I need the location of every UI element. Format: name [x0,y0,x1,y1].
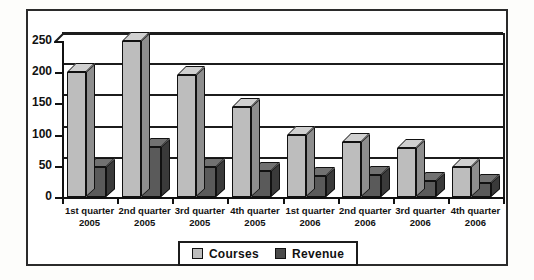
x-tick-4 [227,197,229,204]
x-label-year: 2006 [445,217,505,229]
x-label-year: 2005 [225,217,285,229]
x-label-year: 2006 [390,217,450,229]
chart-legend: Courses Revenue [178,241,358,266]
x-tick-7 [393,197,395,204]
legend-swatch-courses [192,248,203,259]
x-axis-label-6: 2nd quarter2006 [335,205,395,228]
bar-courses-4 [232,107,251,197]
x-tick-6 [338,197,340,204]
legend-label-courses: Courses [209,247,259,261]
bar-side [161,139,170,197]
legend-item-courses: Courses [192,247,259,261]
bar-side [306,126,315,196]
y-tick-label-100: 100 [8,127,52,141]
x-label-year: 2005 [115,217,175,229]
bar-face [67,72,86,197]
bar-face [342,142,361,197]
bar-side [251,98,260,197]
bar-side [86,64,95,197]
x-axis-label-4: 4th quarter2005 [225,205,285,228]
bar-courses-6 [342,142,361,197]
chart-screenshot: 050100150200250 1st quarter20052nd quart… [0,0,534,280]
y-tick-0 [55,197,62,199]
y-tick-label-50: 50 [8,158,52,172]
y-tick-50 [55,166,62,168]
y-tick-100 [55,135,62,137]
bar-side [141,33,150,197]
x-label-year: 2006 [335,217,395,229]
legend-swatch-revenue [275,248,286,259]
y-tick-250 [55,41,62,43]
y-tick-200 [55,72,62,74]
x-tick-2 [117,197,119,204]
y-axis-line [62,41,64,199]
bar-courses-7 [397,148,416,197]
x-tick-8 [448,197,450,204]
x-axis-label-1: 1st quarter2005 [60,205,120,228]
y-tick-150 [55,103,62,105]
x-axis-label-7: 3rd quarter2006 [390,205,450,228]
y-tick-label-0: 0 [8,189,52,203]
bar-courses-8 [452,167,471,197]
x-tick-end [503,197,505,204]
x-label-quarter: 3rd quarter [395,205,445,216]
bar-face [452,167,471,197]
legend-label-revenue: Revenue [292,247,344,261]
x-label-year: 2005 [60,217,120,229]
x-label-quarter: 3rd quarter [175,205,225,216]
bar-courses-1 [67,72,86,197]
y-tick-label-150: 150 [8,95,52,109]
bar-courses-5 [287,135,306,197]
x-label-quarter: 2nd quarter [339,205,391,216]
x-axis-label-3: 3rd quarter2005 [170,205,230,228]
legend-item-revenue: Revenue [275,247,344,261]
x-label-quarter: 4th quarter [230,205,280,216]
x-axis-label-5: 1st quarter2006 [280,205,340,228]
bar-side [361,134,370,197]
x-tick-5 [283,197,285,204]
bar-face [397,148,416,197]
plot-area: 050100150200250 1st quarter20052nd quart… [0,0,534,280]
x-axis-label-2: 2nd quarter2005 [115,205,175,228]
x-tick-1 [62,197,64,204]
bar-face [287,135,306,197]
x-tick-3 [172,197,174,204]
plot-right-wall [503,33,505,197]
x-label-year: 2005 [170,217,230,229]
x-label-quarter: 1st quarter [65,205,114,216]
bar-courses-3 [177,75,196,197]
bar-face [177,75,196,197]
bar-side [416,140,425,197]
bar-face [232,107,251,197]
y-tick-label-250: 250 [8,33,52,47]
x-label-quarter: 2nd quarter [119,205,171,216]
bar-face [122,41,141,197]
x-axis-label-8: 4th quarter2006 [445,205,505,228]
bar-side [196,67,205,197]
y-tick-label-200: 200 [8,64,52,78]
x-label-year: 2006 [280,217,340,229]
x-label-quarter: 1st quarter [286,205,335,216]
x-label-quarter: 4th quarter [451,205,501,216]
bar-courses-2 [122,41,141,197]
